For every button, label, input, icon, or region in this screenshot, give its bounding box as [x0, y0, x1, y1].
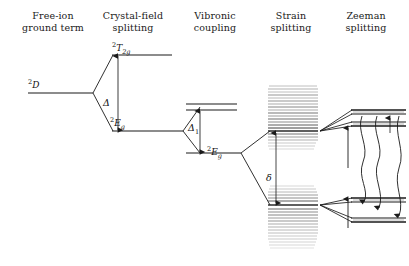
lower-strain-band [268, 186, 318, 248]
upper-zeeman-connectors [320, 110, 352, 131]
zeeman-wavy-transitions [360, 116, 401, 216]
gap-label-delta-strain: δ [266, 172, 272, 183]
connector-to-t2g [93, 55, 113, 93]
column-header-vibronic: Vibronic coupling [178, 10, 252, 33]
gap-symbol-delta1: Δ [188, 122, 195, 133]
term-symbol-eg-vibronic: E [211, 147, 218, 157]
lower-zeeman-connectors [320, 198, 352, 222]
gap-label-delta: Δ [103, 97, 110, 108]
term-subscript-eg-vibronic: g [218, 152, 222, 160]
upper-strain-band [268, 86, 318, 149]
term-symbol-free-ion: D [32, 80, 39, 90]
gap-symbol-delta: Δ [103, 97, 110, 108]
column-header-crystal-field: Crystal-field splitting [92, 10, 174, 33]
term-subscript-t2g: 2g [122, 48, 130, 56]
term-symbol-eg: E [114, 118, 121, 128]
connector-to-strain-upper [241, 131, 270, 153]
term-subscript-eg: g [121, 123, 125, 131]
wavy-transition-1 [360, 116, 365, 202]
gap-symbol-delta-strain: δ [266, 172, 272, 183]
gap-label-delta1: Δ1 [188, 122, 199, 136]
wavy-transition-2 [375, 116, 380, 208]
column-header-free-ion: Free-ion ground term [14, 10, 92, 33]
term-label-t2g: 2T2g [112, 41, 130, 56]
term-label-free-ion: 2D [28, 78, 39, 90]
energy-level-diagram: Free-ion ground term Crystal-field split… [0, 0, 409, 266]
lower-zeeman-levels [351, 198, 406, 222]
wavy-transition-3 [397, 116, 401, 216]
term-label-eg-vibronic: 2Eg [207, 145, 222, 160]
gap-subscript-delta1: 1 [195, 128, 199, 136]
column-header-strain: Strain splitting [256, 10, 326, 33]
zeeman-transition-arrows [348, 118, 390, 228]
term-label-eg: 2Eg [110, 116, 125, 131]
diagram-canvas [0, 0, 409, 266]
column-header-zeeman: Zeeman splitting [330, 10, 402, 33]
strain-connectors [241, 131, 270, 205]
